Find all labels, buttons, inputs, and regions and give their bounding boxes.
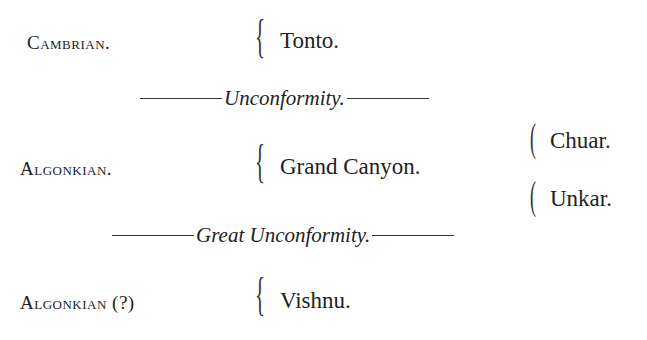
separator-unconformity: Unconformity.: [140, 86, 429, 111]
rule-right: [347, 98, 429, 99]
brace-lower-icon: (: [530, 176, 536, 216]
subunit-chuar: Chuar.: [550, 128, 611, 154]
brace-icon: {: [255, 272, 265, 318]
brace-icon: {: [255, 139, 265, 185]
separator-label: Unconformity.: [224, 86, 345, 111]
brace-icon: {: [255, 14, 265, 60]
era-cambrian: Cambrian.: [27, 32, 110, 54]
unit-grand-canyon: Grand Canyon.: [280, 154, 421, 180]
era-algonkian-questioned: Algonkian (?): [20, 292, 135, 314]
rule-left: [112, 235, 194, 236]
brace-upper-icon: (: [530, 118, 536, 158]
unit-vishnu: Vishnu.: [280, 288, 351, 314]
subunit-unkar: Unkar.: [550, 186, 612, 212]
rule-right: [372, 235, 454, 236]
rule-left: [140, 98, 222, 99]
era-algonkian: Algonkian.: [20, 158, 112, 180]
separator-label: Great Unconformity.: [196, 223, 370, 248]
unit-tonto: Tonto.: [280, 28, 339, 54]
separator-great-unconformity: Great Unconformity.: [112, 223, 454, 248]
